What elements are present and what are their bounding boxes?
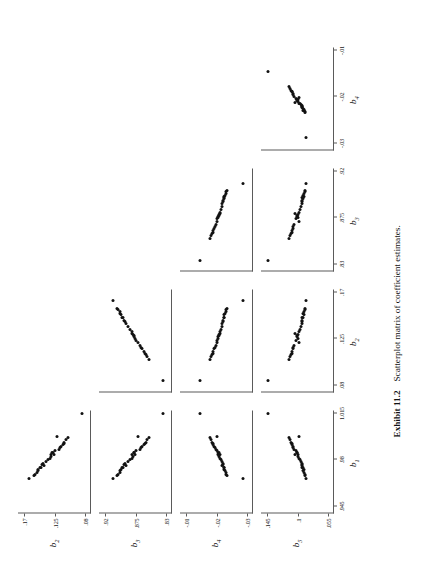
- panel-b5-vs-b1: .055.1.145b5.945.981.015b1: [261, 410, 334, 513]
- data-point: [305, 299, 308, 302]
- data-point: [298, 330, 301, 333]
- figure-caption: Exhibit 11.2Scatterplot matrix of coeffi…: [392, 107, 402, 437]
- data-point: [300, 199, 303, 202]
- plot-area: [180, 168, 253, 271]
- data-point: [290, 89, 293, 92]
- x-tick-label: -.02: [338, 92, 345, 101]
- data-point: [143, 351, 146, 354]
- x-axis-spine: [333, 410, 334, 513]
- data-point: [222, 196, 225, 199]
- data-point: [51, 450, 54, 453]
- rotated-sheet: .08.125.17b2.83.875.92b3-.03-.02-.01b4.0…: [0, 0, 430, 587]
- data-point: [140, 446, 143, 449]
- data-point: [290, 230, 293, 233]
- data-point: [112, 299, 115, 302]
- data-point: [301, 106, 304, 109]
- data-point: [221, 318, 224, 321]
- data-point: [300, 324, 303, 327]
- data-point: [140, 346, 143, 349]
- axis-label-b2: b2: [348, 338, 360, 346]
- plot-area: [261, 289, 334, 392]
- data-point: [242, 477, 245, 480]
- data-point: [80, 412, 83, 415]
- data-point: [225, 188, 228, 191]
- caption-text: Scatterplot matrix of coefficient estima…: [392, 225, 402, 381]
- x-tick-mark: [334, 49, 337, 50]
- x-tick-label: -.03: [338, 139, 345, 148]
- data-point: [208, 357, 211, 360]
- x-tick-label: 1.015: [338, 407, 345, 420]
- data-point: [130, 330, 133, 333]
- data-point: [55, 434, 58, 437]
- data-point: [54, 449, 57, 452]
- data-point: [242, 182, 245, 185]
- y-tick-mark: [24, 513, 25, 516]
- data-point: [292, 93, 295, 96]
- data-point: [304, 188, 307, 191]
- data-point: [242, 299, 245, 302]
- y-axis-spine: [261, 391, 334, 392]
- x-tick-label: .17: [338, 288, 345, 295]
- x-axis-spine: [171, 410, 172, 513]
- data-point: [45, 459, 48, 462]
- data-point: [219, 330, 222, 333]
- data-point: [210, 438, 213, 441]
- data-point: [305, 182, 308, 185]
- data-point: [300, 205, 303, 208]
- panel-b2-vs-b1: .08.125.17b2: [18, 410, 91, 513]
- x-axis-spine: [171, 289, 172, 392]
- axis-label-b4: b4: [348, 96, 360, 104]
- data-point: [290, 441, 293, 444]
- data-point: [295, 334, 298, 337]
- y-tick-label: -.03: [244, 518, 251, 548]
- y-tick-label: .145: [264, 518, 271, 548]
- data-point: [292, 224, 295, 227]
- x-axis-spine: [252, 289, 253, 392]
- data-point: [292, 446, 295, 449]
- y-tick-mark: [166, 513, 167, 516]
- axis-label-b4: b4: [210, 539, 222, 547]
- data-point: [162, 379, 165, 382]
- y-tick-mark: [217, 513, 218, 516]
- x-tick-label: .08: [338, 381, 345, 388]
- panel-b3-vs-b2: [99, 289, 172, 392]
- y-tick-mark: [328, 513, 329, 516]
- data-point: [127, 324, 130, 327]
- data-point: [304, 474, 307, 477]
- data-point: [301, 315, 304, 318]
- panel-b3-vs-b1: .83.875.92b3: [99, 410, 172, 513]
- y-tick-mark: [55, 513, 56, 516]
- data-point: [267, 258, 270, 261]
- data-point: [211, 230, 214, 233]
- data-point: [224, 469, 227, 472]
- panel-b5-vs-b4: -.03-.02-.01b4: [261, 47, 334, 150]
- data-point: [267, 412, 270, 415]
- data-point: [208, 237, 211, 240]
- y-tick-label: .83: [163, 518, 170, 548]
- y-axis-spine: [99, 391, 172, 392]
- data-point: [64, 438, 67, 441]
- data-point: [297, 434, 300, 437]
- data-point: [217, 450, 220, 453]
- plot-area: [99, 289, 172, 392]
- y-axis-spine: [180, 391, 253, 392]
- y-tick-label: .17: [21, 518, 28, 548]
- data-point: [221, 199, 224, 202]
- data-point: [224, 311, 227, 314]
- data-point: [148, 436, 151, 439]
- data-point: [215, 434, 218, 437]
- data-point: [28, 477, 31, 480]
- data-point: [198, 258, 201, 261]
- data-point: [267, 69, 270, 72]
- data-point: [289, 438, 292, 441]
- y-tick-label: .08: [82, 518, 89, 548]
- y-tick-mark: [267, 513, 268, 516]
- data-point: [301, 465, 304, 468]
- data-point: [133, 450, 136, 453]
- plot-area: [18, 410, 91, 513]
- x-tick-mark: [334, 142, 337, 143]
- plot-area: [180, 410, 253, 513]
- panel-b4-vs-b3: [180, 168, 253, 271]
- data-point: [301, 196, 304, 199]
- data-point: [62, 441, 65, 444]
